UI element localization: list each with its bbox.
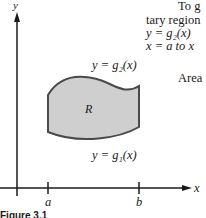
figure-caption: Figure 3.1 xyxy=(0,210,47,218)
x-axis-arrow-icon xyxy=(182,185,192,191)
upper-curve-label: y = g₂(x) xyxy=(92,59,137,72)
body-text-line-3: y = g₂(x) xyxy=(146,27,191,40)
x-axis-label: x xyxy=(194,182,200,195)
y-axis-label: y xyxy=(13,0,18,11)
body-text-line-5: Area xyxy=(178,72,202,85)
region-label: R xyxy=(85,103,92,115)
lower-curve-label: y = g₁(x) xyxy=(92,149,137,162)
body-text-line-4: x = a to x xyxy=(146,40,194,53)
tick-b-label: b xyxy=(136,196,142,209)
body-text-line-1: To g xyxy=(178,0,200,13)
body-text-line-2: tary region xyxy=(146,14,201,27)
region-r xyxy=(48,77,139,139)
y-axis-arrow-icon xyxy=(14,12,20,22)
tick-a-label: a xyxy=(45,196,51,209)
